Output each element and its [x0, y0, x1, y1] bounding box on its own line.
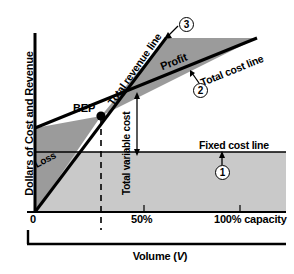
- callout-number-1: 1: [215, 165, 230, 180]
- x-axis-title-close: ): [184, 250, 187, 262]
- x-axis-title: Volume (V): [34, 251, 286, 262]
- bep-label: BEP: [73, 103, 95, 114]
- x-tick-label-100: 100% capacity: [214, 214, 287, 225]
- x-tick-label-0: 0: [30, 214, 36, 225]
- fixed-cost-line-label: Fixed cost line: [199, 140, 269, 151]
- break-even-chart: Dollars of Cost and Revenue Volume (V) 0…: [0, 0, 294, 274]
- x-tick-label-50: 50%: [131, 214, 152, 225]
- callout-number-3: 3: [179, 17, 194, 32]
- x-axis-title-variable: V: [177, 250, 184, 262]
- tvc-line-1: Total: [121, 173, 132, 195]
- x-axis-title-text: Volume (: [133, 250, 177, 262]
- total-variable-cost-label: Total variable cost: [122, 112, 132, 195]
- tvc-line-3: cost: [121, 112, 132, 132]
- tvc-line-2: variable: [121, 134, 132, 170]
- y-axis-title: Dollars of Cost and Revenue: [24, 39, 35, 209]
- callout-number-2: 2: [193, 83, 208, 98]
- bep-marker: [96, 111, 105, 120]
